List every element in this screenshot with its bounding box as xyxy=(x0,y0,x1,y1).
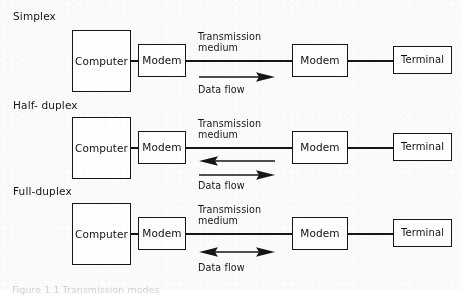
node-terminal-full-duplex: Terminal xyxy=(393,219,452,247)
node-modem-left-simplex: Modem xyxy=(138,44,186,77)
wire-modem-terminal-simplex xyxy=(348,60,393,61)
transmission-medium-line-2: medium xyxy=(198,216,261,227)
data-flow-label-full-duplex: Data flow xyxy=(198,262,245,273)
row-label-simplex: Simplex xyxy=(13,10,56,22)
node-modem-left-half-duplex: Modem xyxy=(138,131,186,164)
node-modem-right-simplex: Modem xyxy=(292,44,348,77)
data-flow-label-half-duplex: Data flow xyxy=(198,180,245,191)
node-label: Modem xyxy=(142,142,181,153)
node-label: Computer xyxy=(75,143,128,154)
wire-computer-modem-full-duplex xyxy=(131,233,138,234)
row-label-half-duplex: Half- duplex xyxy=(13,99,78,111)
node-label: Computer xyxy=(75,56,128,67)
node-computer-half-duplex: Computer xyxy=(72,117,131,179)
row-label-full-duplex: Full-duplex xyxy=(13,185,72,197)
data-flow-label-simplex: Data flow xyxy=(198,84,245,95)
node-label: Terminal xyxy=(401,55,444,65)
node-terminal-simplex: Terminal xyxy=(393,46,452,74)
node-label: Modem xyxy=(300,55,339,66)
wire-modem-terminal-half-duplex xyxy=(348,147,393,148)
node-modem-right-half-duplex: Modem xyxy=(292,131,348,164)
node-label: Terminal xyxy=(401,228,444,238)
wire-transmission-medium-simplex xyxy=(186,60,292,61)
arrow-bidirectional-full-duplex xyxy=(198,243,276,255)
figure-caption: Figure 1.1 Transmission modes xyxy=(12,284,159,295)
node-label: Modem xyxy=(142,228,181,239)
node-modem-right-full-duplex: Modem xyxy=(292,217,348,250)
wire-transmission-medium-full-duplex xyxy=(186,233,292,234)
node-modem-left-full-duplex: Modem xyxy=(138,217,186,250)
wire-computer-modem-half-duplex xyxy=(131,147,138,148)
node-label: Modem xyxy=(300,142,339,153)
node-terminal-half-duplex: Terminal xyxy=(393,133,452,161)
transmission-medium-line-2: medium xyxy=(198,43,261,54)
transmission-medium-label-simplex: Transmission medium xyxy=(198,32,261,53)
wire-transmission-medium-half-duplex xyxy=(186,147,292,148)
node-label: Modem xyxy=(300,228,339,239)
node-label: Modem xyxy=(142,55,181,66)
wire-modem-terminal-full-duplex xyxy=(348,233,393,234)
arrow-left-half-duplex xyxy=(198,152,276,164)
arrow-right-half-duplex xyxy=(198,166,276,178)
wire-computer-modem-simplex xyxy=(131,60,138,61)
arrow-right-simplex xyxy=(198,68,276,80)
node-computer-full-duplex: Computer xyxy=(72,203,131,265)
node-computer-simplex: Computer xyxy=(72,30,131,92)
node-label: Computer xyxy=(75,229,128,240)
transmission-medium-label-half-duplex: Transmission medium xyxy=(198,119,261,140)
transmission-medium-line-2: medium xyxy=(198,130,261,141)
node-label: Terminal xyxy=(401,142,444,152)
transmission-medium-label-full-duplex: Transmission medium xyxy=(198,205,261,226)
